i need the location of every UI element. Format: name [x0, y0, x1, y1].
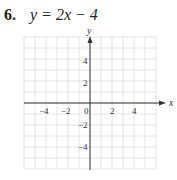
x-tick: −2	[61, 106, 71, 116]
y-tick: 2	[83, 78, 88, 88]
y-tick: −2	[78, 120, 88, 130]
y-axis-label: y	[86, 25, 92, 36]
x-tick: 0	[84, 106, 89, 116]
x-axis-label: x	[168, 97, 174, 108]
x-tick: −4	[39, 106, 49, 116]
y-tick: −4	[78, 142, 88, 152]
x-tick: 4	[132, 106, 137, 116]
x-axis-arrow-icon	[159, 101, 166, 106]
y-tick: 4	[83, 56, 88, 66]
coordinate-grid: x y −4 −2 0 2 4 4 2 −2 −4	[0, 0, 177, 180]
x-tick: 2	[110, 106, 115, 116]
